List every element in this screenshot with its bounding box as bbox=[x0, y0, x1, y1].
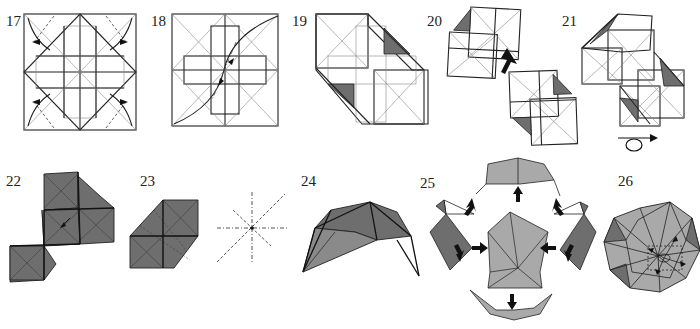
step-22: 22 bbox=[0, 160, 130, 300]
step-18: 18 bbox=[140, 0, 280, 140]
step-17: 17 bbox=[0, 0, 140, 140]
step-21-diagram bbox=[560, 0, 700, 160]
step-19: 19 bbox=[280, 0, 425, 140]
arrow-icon bbox=[32, 99, 40, 105]
step-22-diagram bbox=[0, 160, 130, 300]
step-20-diagram bbox=[425, 0, 565, 150]
fold-arrow-icon bbox=[218, 78, 224, 86]
crease-pattern-star bbox=[215, 190, 290, 270]
step-19-diagram bbox=[280, 0, 425, 140]
arrow-icon bbox=[120, 39, 128, 45]
step-21: 21 bbox=[560, 0, 700, 160]
step-18-diagram bbox=[140, 0, 280, 140]
step-24: 24 bbox=[295, 160, 425, 300]
step-23-diagram bbox=[130, 160, 220, 300]
turn-over-icon bbox=[618, 134, 658, 151]
step-25: 25 bbox=[410, 150, 610, 329]
arrow-icon bbox=[120, 99, 128, 105]
step-25-diagram bbox=[410, 150, 610, 329]
arrow-icon bbox=[32, 39, 40, 45]
step-20: 20 bbox=[425, 0, 565, 150]
step-26: 26 bbox=[600, 160, 700, 329]
step-23: 23 bbox=[130, 160, 220, 300]
step-17-diagram bbox=[0, 0, 140, 140]
step-24-diagram bbox=[295, 160, 425, 300]
crease-star-diagram bbox=[215, 190, 290, 270]
step-26-diagram bbox=[600, 160, 700, 329]
